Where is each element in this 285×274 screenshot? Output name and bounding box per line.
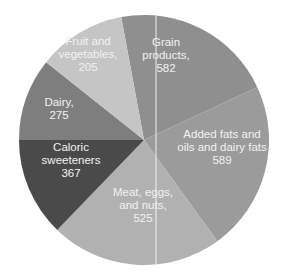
pie-chart: Grainproducts,582Added fats andoils and … <box>0 0 285 274</box>
